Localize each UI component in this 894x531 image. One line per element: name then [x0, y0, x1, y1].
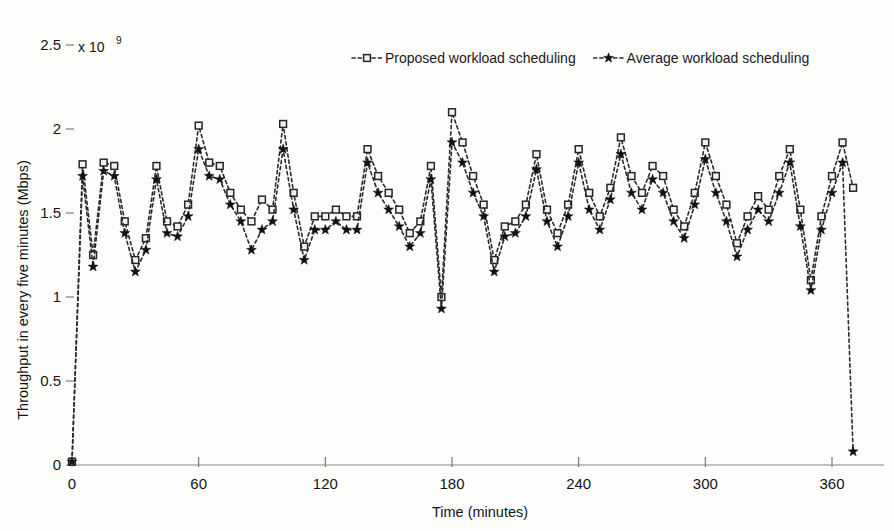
marker-square — [216, 163, 223, 170]
marker-square — [322, 213, 329, 220]
marker-square — [248, 218, 255, 225]
marker-square — [723, 201, 730, 208]
marker-square — [100, 159, 107, 166]
marker-square — [586, 189, 593, 196]
x-tick-label: 0 — [68, 475, 76, 492]
marker-square — [195, 122, 202, 129]
marker-square — [850, 184, 857, 191]
marker-square — [512, 218, 519, 225]
marker-square — [459, 139, 466, 146]
marker-square — [533, 151, 540, 158]
marker-square — [364, 55, 371, 62]
marker-square — [227, 189, 234, 196]
marker-square — [153, 163, 160, 170]
marker-square — [480, 201, 487, 208]
marker-square — [702, 139, 709, 146]
marker-square — [660, 173, 667, 180]
marker-square — [343, 213, 350, 220]
marker-square — [839, 139, 846, 146]
y-axis-multiplier-base: x 10 — [78, 39, 105, 55]
y-axis-multiplier-exponent: 9 — [116, 35, 122, 46]
marker-square — [332, 206, 339, 213]
marker-square — [311, 213, 318, 220]
x-tick-label: 240 — [566, 475, 591, 492]
legend-label-2: Average workload scheduling — [627, 50, 810, 66]
marker-square — [575, 146, 582, 153]
marker-square — [755, 193, 762, 200]
marker-square — [259, 196, 266, 203]
marker-square — [765, 206, 772, 213]
marker-square — [744, 213, 751, 220]
throughput-chart: x 10 9 Throughput in every five minutes … — [0, 0, 894, 531]
marker-square — [427, 163, 434, 170]
legend-label-1: Proposed workload scheduling — [385, 50, 576, 66]
marker-square — [786, 146, 793, 153]
y-tick-label: 0.5 — [40, 372, 61, 389]
y-tick-label: 2 — [53, 120, 61, 137]
marker-square — [375, 173, 382, 180]
x-tick-label: 180 — [439, 475, 464, 492]
y-tick-label: 1 — [53, 288, 61, 305]
marker-square — [206, 159, 213, 166]
marker-square — [628, 173, 635, 180]
y-tick-label: 2.5 — [40, 36, 61, 53]
marker-square — [406, 230, 413, 237]
y-tick-label: 1.5 — [40, 204, 61, 221]
marker-square — [237, 206, 244, 213]
marker-square — [649, 163, 656, 170]
x-axis-title: Time (minutes) — [432, 504, 528, 520]
marker-square — [364, 146, 371, 153]
marker-square — [396, 206, 403, 213]
y-axis-title: Throughput in every five minutes (Mbps) — [15, 160, 31, 420]
marker-square — [712, 173, 719, 180]
y-tick-label: 0 — [53, 456, 61, 473]
marker-square — [776, 173, 783, 180]
marker-square — [111, 163, 118, 170]
marker-square — [79, 161, 86, 168]
marker-square — [470, 173, 477, 180]
marker-square — [670, 206, 677, 213]
marker-square — [734, 240, 741, 247]
marker-square — [617, 134, 624, 141]
marker-square — [280, 121, 287, 128]
marker-square — [174, 223, 181, 230]
marker-square — [639, 189, 646, 196]
x-tick-label: 60 — [190, 475, 207, 492]
marker-square — [501, 223, 508, 230]
marker-square — [829, 173, 836, 180]
marker-square — [554, 230, 561, 237]
x-tick-label: 300 — [693, 475, 718, 492]
marker-square — [449, 109, 456, 116]
marker-square — [385, 189, 392, 196]
marker-square — [596, 213, 603, 220]
x-tick-label: 360 — [819, 475, 844, 492]
x-tick-label: 120 — [313, 475, 338, 492]
